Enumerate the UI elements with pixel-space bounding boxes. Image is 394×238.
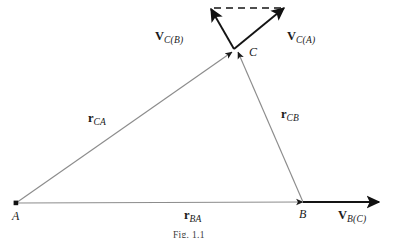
vertex-marker-a bbox=[14, 201, 19, 206]
figure-caption: Fig. 1.1 bbox=[173, 231, 205, 238]
point-label-c: C bbox=[249, 46, 257, 58]
vector-diagram-figure: A B C rCA rCB rBA VC(B) VC(A) VB(C) Fig.… bbox=[0, 0, 394, 238]
vector-v-c-b bbox=[211, 9, 234, 49]
v-b-c-symbol: V bbox=[338, 208, 347, 222]
point-label-b: B bbox=[299, 208, 306, 220]
v-c-b-subscript: C(B) bbox=[164, 35, 183, 45]
label-r-cb: rCB bbox=[281, 108, 299, 123]
line-r-cb bbox=[238, 52, 303, 202]
r-ba-subscript: BA bbox=[190, 214, 202, 224]
v-c-a-subscript: C(A) bbox=[296, 35, 315, 45]
label-v-b-c: VB(C) bbox=[338, 209, 366, 224]
label-v-c-a: VC(A) bbox=[287, 30, 315, 45]
v-c-a-symbol: V bbox=[287, 29, 296, 43]
v-c-b-symbol: V bbox=[155, 29, 164, 43]
label-r-ca: rCA bbox=[88, 112, 106, 127]
point-label-a: A bbox=[12, 210, 19, 222]
r-ca-subscript: CA bbox=[94, 117, 107, 127]
label-v-c-b: VC(B) bbox=[155, 30, 183, 45]
r-cb-subscript: CB bbox=[287, 113, 300, 123]
line-r-ba bbox=[16, 202, 303, 203]
vector-v-c-a bbox=[234, 8, 284, 49]
label-r-ba: rBA bbox=[184, 209, 202, 224]
diagram-canvas bbox=[0, 0, 394, 238]
v-b-c-subscript: B(C) bbox=[347, 214, 366, 224]
line-r-ca bbox=[16, 52, 232, 203]
